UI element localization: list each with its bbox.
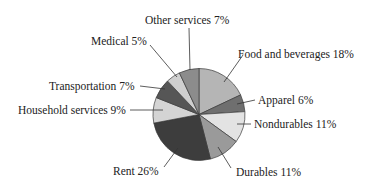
slice-label: Household services 9%	[18, 104, 126, 116]
slice-label: Apparel 6%	[258, 94, 314, 107]
slice-label: Transportation 7%	[49, 80, 135, 93]
leader-line	[150, 45, 177, 77]
slice-label: Rent 26%	[113, 165, 159, 177]
slice-label: Food and beverages 18%	[238, 48, 354, 61]
slice-label: Medical 5%	[91, 35, 147, 47]
leader-line	[140, 86, 165, 89]
pie-slices	[153, 69, 245, 161]
slice-label: Nondurables 11%	[254, 118, 337, 130]
pie-chart: Food and beverages 18%Apparel 6%Nondurab…	[0, 0, 375, 191]
slice-label: Other services 7%	[145, 14, 230, 26]
leader-line	[189, 28, 190, 70]
slice-label: Durables 11%	[236, 166, 301, 178]
